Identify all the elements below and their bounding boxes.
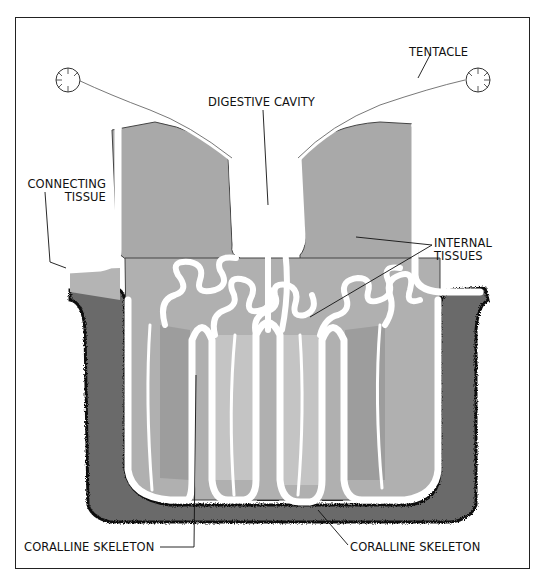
label-internal-tissues-line2: TISSUES: [434, 250, 492, 263]
label-coralline-skeleton-left: CORALLINE SKELETON: [24, 541, 154, 554]
label-tentacle: TENTACLE: [409, 46, 468, 59]
label-coralline-skeleton-right: CORALLINE SKELETON: [350, 541, 480, 554]
illustration: [0, 0, 548, 584]
label-connecting-tissue: CONNECTING TISSUE: [20, 178, 106, 204]
label-digestive-cavity: DIGESTIVE CAVITY: [208, 96, 315, 109]
label-connecting-tissue-line2: TISSUE: [20, 191, 106, 204]
coral-polyp-diagram: TENTACLE DIGESTIVE CAVITY CONNECTING TIS…: [0, 0, 548, 584]
label-internal-tissues: INTERNAL TISSUES: [434, 237, 492, 263]
